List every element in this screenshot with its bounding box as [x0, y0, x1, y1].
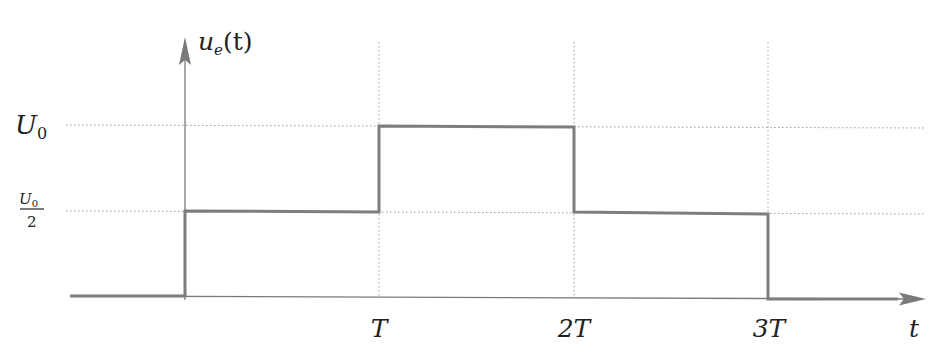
- y-tick-label-u0-half: U0 2: [19, 190, 44, 231]
- y-tick-label-u0: U0: [15, 110, 47, 143]
- x-tick-label-2t: 2T: [557, 314, 593, 343]
- step-function-diagram: ue(t) U0 U0 2 T 2T 3T t: [0, 0, 945, 360]
- y-tick-u0-sub: 0: [37, 124, 47, 143]
- y-tick-half-numerator-sub: 0: [32, 198, 38, 209]
- x-axis-label: t: [909, 314, 920, 343]
- y-tick-half-denominator: 2: [27, 213, 37, 231]
- x-tick-label-3t: 3T: [753, 314, 788, 343]
- horizontal-gridlines: [66, 125, 925, 214]
- y-axis-label: ue(t): [198, 27, 253, 59]
- y-tick-u0-base: U: [15, 110, 38, 140]
- svg-text:U0: U0: [19, 190, 38, 209]
- y-axis-label-suffix: (t): [223, 27, 253, 56]
- signal-waveform: [70, 126, 898, 299]
- x-tick-label-t: T: [371, 314, 390, 343]
- y-axis-label-subscript: e: [214, 41, 223, 59]
- y-axis-label-base: u: [198, 27, 214, 56]
